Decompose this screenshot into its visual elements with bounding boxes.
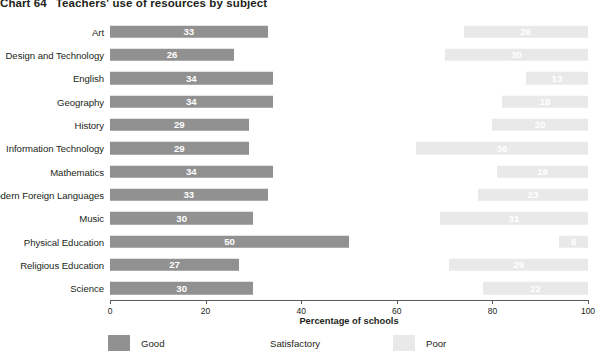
chart-number: Chart 64 xyxy=(0,0,47,9)
bar-poor: 30 xyxy=(445,49,588,62)
bar-value-poor: 6 xyxy=(571,237,576,247)
bar-poor: 13 xyxy=(526,72,588,85)
bar-value-good: 34 xyxy=(186,97,197,107)
bar-good: 34 xyxy=(110,95,273,108)
x-axis: 020406080100 xyxy=(110,300,588,301)
chart-row: Information Technology2936 xyxy=(110,137,588,160)
bar-good: 30 xyxy=(110,212,253,225)
legend-swatch xyxy=(237,335,259,351)
x-tick xyxy=(492,300,493,304)
chart-title-text: Teachers' use of resources by subject xyxy=(56,0,267,9)
chart-row: Design and Technology2630 xyxy=(110,43,588,66)
x-tick-label: 20 xyxy=(201,306,210,316)
bar-value-poor: 30 xyxy=(511,50,522,60)
legend-item: Good xyxy=(108,334,164,352)
bar-value-poor: 29 xyxy=(513,260,524,270)
bar-poor: 23 xyxy=(478,189,588,202)
bar-value-poor: 36 xyxy=(497,144,508,154)
bar-value-good: 33 xyxy=(184,190,195,200)
x-tick-label: 0 xyxy=(108,306,113,316)
chart-row: Physical Education506 xyxy=(110,230,588,253)
bar-value-good: 26 xyxy=(167,50,178,60)
x-tick xyxy=(206,300,207,304)
chart-row: History2920 xyxy=(110,113,588,136)
category-label: Design and Technology xyxy=(5,49,104,60)
category-label: Religious Education xyxy=(20,259,104,270)
x-tick xyxy=(110,300,111,304)
bar-value-poor: 31 xyxy=(509,214,520,224)
category-label: Mathematics xyxy=(50,166,104,177)
chart-row: Art3326 xyxy=(110,20,588,43)
category-label: Modern Foreign Languages xyxy=(0,189,104,200)
bar-value-poor: 13 xyxy=(552,74,563,84)
chart-row: Science3022 xyxy=(110,277,588,300)
x-tick xyxy=(397,300,398,304)
bar-good: 30 xyxy=(110,282,253,295)
category-label: Art xyxy=(92,26,104,37)
page-title: Chart 64Teachers' use of resources by su… xyxy=(0,0,267,9)
x-tick-label: 60 xyxy=(392,306,401,316)
bar-poor: 29 xyxy=(449,259,588,272)
bar-poor: 19 xyxy=(497,165,588,178)
x-tick-label: 80 xyxy=(488,306,497,316)
bar-value-good: 29 xyxy=(174,120,185,130)
bar-good: 26 xyxy=(110,49,234,62)
category-label: Physical Education xyxy=(24,236,104,247)
bar-value-good: 34 xyxy=(186,74,197,84)
x-tick-label: 100 xyxy=(581,306,595,316)
bar-poor: 26 xyxy=(464,25,588,38)
bar-poor: 22 xyxy=(483,282,588,295)
bar-good: 33 xyxy=(110,189,268,202)
legend-item: Satisfactory xyxy=(237,334,320,352)
x-tick xyxy=(301,300,302,304)
legend-label: Good xyxy=(141,338,164,349)
x-axis-title: Percentage of schools xyxy=(110,316,588,326)
chart-row: Mathematics3419 xyxy=(110,160,588,183)
legend-swatch xyxy=(393,335,415,351)
category-label: Music xyxy=(79,213,104,224)
legend-swatch xyxy=(108,335,130,351)
bar-good: 50 xyxy=(110,235,349,248)
bar-value-poor: 23 xyxy=(528,190,539,200)
bar-value-good: 30 xyxy=(176,214,187,224)
chart-row: Music3031 xyxy=(110,207,588,230)
chart-row: Modern Foreign Languages3323 xyxy=(110,183,588,206)
bar-value-good: 34 xyxy=(186,167,197,177)
chart-row: Religious Education2729 xyxy=(110,253,588,276)
category-label: English xyxy=(73,73,104,84)
bar-value-poor: 22 xyxy=(530,284,541,294)
chart-row: English3413 xyxy=(110,67,588,90)
bar-good: 27 xyxy=(110,259,239,272)
category-label: Information Technology xyxy=(6,143,104,154)
bar-good: 29 xyxy=(110,119,249,132)
bar-value-good: 27 xyxy=(169,260,180,270)
bar-poor: 31 xyxy=(440,212,588,225)
x-tick xyxy=(588,300,589,304)
bar-value-poor: 18 xyxy=(540,97,551,107)
bar-poor: 36 xyxy=(416,142,588,155)
bar-value-good: 33 xyxy=(184,27,195,37)
bar-value-good: 29 xyxy=(174,144,185,154)
bar-value-poor: 26 xyxy=(521,27,532,37)
chart-row: Geography3418 xyxy=(110,90,588,113)
bar-poor: 20 xyxy=(492,119,588,132)
bar-poor: 6 xyxy=(559,235,588,248)
bar-value-good: 30 xyxy=(176,284,187,294)
bar-good: 34 xyxy=(110,72,273,85)
plot-area: Art3326Design and Technology2630English3… xyxy=(110,20,588,300)
legend-item: Poor xyxy=(393,334,446,352)
bar-poor: 18 xyxy=(502,95,588,108)
bar-value-good: 50 xyxy=(224,237,235,247)
category-label: Science xyxy=(70,283,104,294)
bar-good: 33 xyxy=(110,25,268,38)
x-tick-label: 40 xyxy=(296,306,305,316)
legend-label: Satisfactory xyxy=(270,338,320,349)
category-label: History xyxy=(75,119,105,130)
category-label: Geography xyxy=(57,96,104,107)
bar-good: 34 xyxy=(110,165,273,178)
legend-label: Poor xyxy=(426,338,446,349)
bar-good: 29 xyxy=(110,142,249,155)
bar-value-poor: 20 xyxy=(535,120,546,130)
bar-value-poor: 19 xyxy=(537,167,548,177)
